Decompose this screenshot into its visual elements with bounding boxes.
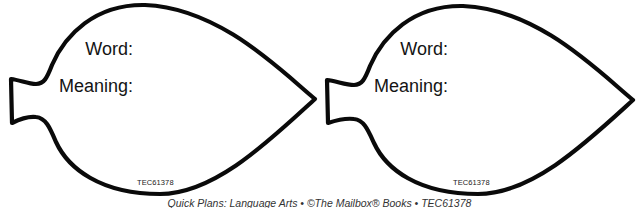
- word-label: Word:: [355, 39, 448, 59]
- fish-card-left-outline: [11, 5, 315, 194]
- footer-credit: Quick Plans: Language Arts • ©The Mailbo…: [0, 197, 639, 208]
- worksheet-page: Word: Meaning: TEC61378 Word: Meaning: T…: [0, 0, 639, 208]
- word-label: Word:: [40, 39, 133, 59]
- fish-outlines: [0, 0, 639, 208]
- product-code: TEC61378: [453, 178, 490, 187]
- meaning-label: Meaning:: [335, 76, 448, 96]
- product-code: TEC61378: [137, 178, 174, 187]
- meaning-label: Meaning:: [20, 76, 133, 96]
- fish-card-right-outline: [327, 6, 633, 194]
